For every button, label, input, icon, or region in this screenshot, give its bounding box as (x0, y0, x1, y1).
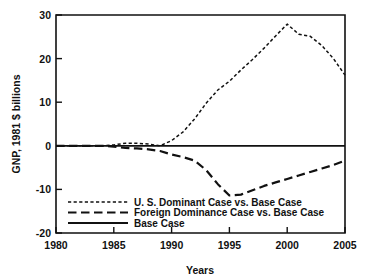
x-axis-label: Years (186, 264, 214, 276)
y-tick-label-0: 0 (45, 140, 51, 152)
y-tick-label-30: 30 (39, 9, 51, 21)
x-tick-label-2000: 2000 (276, 239, 300, 251)
y-tick-label-20: 20 (39, 53, 51, 65)
x-tick-label-1985: 1985 (102, 239, 126, 251)
x-tick-label-1990: 1990 (160, 239, 184, 251)
x-tick-label-2005: 2005 (333, 239, 357, 251)
x-tick-label-1995: 1995 (218, 239, 242, 251)
y-tick-label-10: 10 (39, 96, 51, 108)
legend-label-1: Foreign Dominance Case vs. Base Case (134, 207, 325, 218)
y-axis-label: GNP, 1981 $ billions (10, 74, 22, 173)
x-tick-label-1980: 1980 (44, 239, 68, 251)
gnp-line-chart: 3020100-10-20 198019851990199520002005 G… (0, 0, 375, 278)
y-tick-label--20: -20 (36, 227, 51, 239)
chart-container: 3020100-10-20 198019851990199520002005 G… (0, 0, 375, 278)
y-tick-label--10: -10 (36, 183, 51, 195)
legend-label-0: U. S. Dominant Case vs. Base Case (134, 197, 302, 208)
legend-label-2: Base Case (134, 218, 185, 229)
